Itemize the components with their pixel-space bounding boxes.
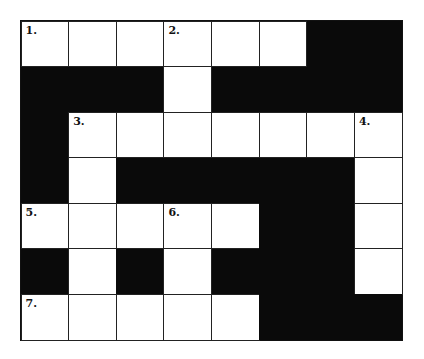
blocked-cell	[164, 158, 212, 204]
crossword-cell[interactable]: 1.	[21, 21, 70, 68]
clue-number: 2.	[168, 24, 179, 37]
crossword-cell[interactable]	[68, 203, 117, 250]
blocked-cell	[259, 67, 307, 113]
blocked-cell	[259, 203, 307, 249]
blocked-cell	[354, 21, 402, 67]
blocked-cell	[21, 249, 69, 295]
blocked-cell	[307, 21, 355, 67]
blocked-cell	[21, 158, 69, 204]
blocked-cell	[259, 249, 307, 295]
blocked-cell	[307, 67, 355, 113]
blocked-cell	[212, 249, 260, 295]
blocked-cell	[212, 158, 260, 204]
clue-number: 5.	[26, 206, 37, 219]
crossword-cell[interactable]	[354, 248, 403, 295]
blocked-cell	[354, 67, 402, 113]
clue-number: 6.	[168, 206, 179, 219]
blocked-cell	[116, 249, 164, 295]
crossword-cell[interactable]	[68, 157, 117, 204]
blocked-cell	[307, 294, 355, 340]
crossword-cell[interactable]	[211, 112, 260, 159]
blocked-cell	[21, 67, 69, 113]
crossword-cell[interactable]	[211, 294, 260, 341]
crossword-cell[interactable]	[163, 294, 212, 341]
blocked-cell	[21, 112, 69, 158]
crossword-cell[interactable]	[116, 203, 165, 250]
crossword-cell[interactable]: 2.	[163, 21, 212, 68]
clue-number: 7.	[26, 297, 37, 310]
crossword-cell[interactable]	[211, 21, 260, 68]
crossword-cell[interactable]	[354, 157, 403, 204]
clue-number: 1.	[26, 24, 37, 37]
blocked-cell	[307, 203, 355, 249]
blocked-cell	[116, 67, 164, 113]
crossword-cell[interactable]	[259, 21, 308, 68]
crossword-cell[interactable]: 4.	[354, 112, 403, 159]
clue-number: 4.	[359, 115, 370, 128]
crossword-cell[interactable]	[116, 294, 165, 341]
crossword-cell[interactable]	[211, 203, 260, 250]
blocked-cell	[354, 294, 402, 340]
blocked-cell	[307, 249, 355, 295]
blocked-cell	[212, 67, 260, 113]
crossword-cell[interactable]	[259, 112, 308, 159]
crossword-cell[interactable]: 6.	[163, 203, 212, 250]
crossword-cell[interactable]: 3.	[68, 112, 117, 159]
crossword-cell[interactable]	[68, 248, 117, 295]
blocked-cell	[69, 67, 117, 113]
clue-number: 3.	[73, 115, 84, 128]
crossword-cell[interactable]: 5.	[21, 203, 70, 250]
crossword-grid: 1.2.3.4.5.6.7.	[20, 20, 403, 341]
crossword-cell[interactable]	[163, 112, 212, 159]
crossword-cell[interactable]	[306, 112, 355, 159]
blocked-cell	[259, 294, 307, 340]
crossword-cell[interactable]	[354, 203, 403, 250]
blocked-cell	[307, 158, 355, 204]
crossword-cell[interactable]	[116, 21, 165, 68]
crossword-cell[interactable]	[163, 248, 212, 295]
crossword-cell[interactable]	[68, 21, 117, 68]
blocked-cell	[259, 158, 307, 204]
crossword-cell[interactable]: 7.	[21, 294, 70, 341]
crossword-cell[interactable]	[163, 66, 212, 113]
crossword-cell[interactable]	[116, 112, 165, 159]
crossword-cell[interactable]	[68, 294, 117, 341]
blocked-cell	[116, 158, 164, 204]
